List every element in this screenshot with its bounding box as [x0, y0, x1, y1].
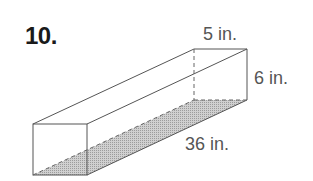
prism-diagram [0, 0, 313, 181]
length-label: 36 in. [185, 134, 229, 155]
width-label: 5 in. [203, 24, 237, 45]
height-label: 6 in. [254, 68, 288, 89]
